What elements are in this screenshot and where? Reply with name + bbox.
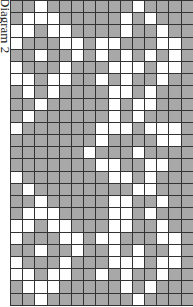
shaded-cell xyxy=(182,123,193,135)
shaded-cell xyxy=(72,25,84,37)
shaded-cell xyxy=(145,294,157,306)
shaded-cell xyxy=(157,50,169,62)
empty-cell xyxy=(11,220,23,232)
empty-cell xyxy=(60,62,72,74)
shaded-cell xyxy=(133,38,145,50)
shaded-cell xyxy=(182,38,193,50)
shaded-cell xyxy=(84,111,96,123)
shaded-cell xyxy=(48,123,60,135)
empty-cell xyxy=(11,25,23,37)
shaded-cell xyxy=(182,147,193,159)
shaded-cell xyxy=(60,123,72,135)
shaded-cell xyxy=(145,196,157,208)
shaded-cell xyxy=(182,269,193,281)
shaded-cell xyxy=(169,294,181,306)
shaded-cell xyxy=(157,281,169,293)
empty-cell xyxy=(109,159,121,171)
empty-cell xyxy=(121,86,133,98)
shaded-cell xyxy=(182,294,193,306)
shaded-cell xyxy=(133,135,145,147)
empty-cell xyxy=(121,13,133,25)
shaded-cell xyxy=(157,13,169,25)
shaded-cell xyxy=(48,233,60,245)
empty-cell xyxy=(169,38,181,50)
empty-cell xyxy=(11,38,23,50)
shaded-cell xyxy=(60,135,72,147)
shaded-cell xyxy=(182,50,193,62)
shaded-cell xyxy=(23,245,35,257)
shaded-cell xyxy=(84,233,96,245)
empty-cell xyxy=(109,196,121,208)
shaded-cell xyxy=(35,147,47,159)
empty-cell xyxy=(35,99,47,111)
empty-cell xyxy=(145,208,157,220)
empty-cell xyxy=(23,13,35,25)
shaded-cell xyxy=(169,269,181,281)
empty-cell xyxy=(48,25,60,37)
empty-cell xyxy=(157,74,169,86)
shaded-cell xyxy=(182,196,193,208)
empty-cell xyxy=(96,233,108,245)
empty-cell xyxy=(121,50,133,62)
empty-cell xyxy=(121,74,133,86)
shaded-cell xyxy=(182,135,193,147)
shaded-cell xyxy=(23,172,35,184)
shaded-cell xyxy=(133,220,145,232)
shaded-cell xyxy=(11,245,23,257)
shaded-cell xyxy=(60,50,72,62)
empty-cell xyxy=(133,294,145,306)
shaded-cell xyxy=(60,13,72,25)
shaded-cell xyxy=(11,294,23,306)
shaded-cell xyxy=(182,257,193,269)
empty-cell xyxy=(60,233,72,245)
empty-cell xyxy=(133,111,145,123)
shaded-cell xyxy=(169,281,181,293)
shaded-cell xyxy=(145,220,157,232)
shaded-cell xyxy=(121,294,133,306)
shaded-cell xyxy=(60,111,72,123)
shaded-cell xyxy=(23,38,35,50)
shaded-cell xyxy=(121,184,133,196)
empty-cell xyxy=(133,245,145,257)
shaded-cell xyxy=(182,172,193,184)
shaded-cell xyxy=(133,123,145,135)
shaded-cell xyxy=(35,74,47,86)
shaded-cell xyxy=(23,257,35,269)
shaded-cell xyxy=(72,123,84,135)
empty-cell xyxy=(109,208,121,220)
shaded-cell xyxy=(182,25,193,37)
shaded-cell xyxy=(157,294,169,306)
shaded-cell xyxy=(96,86,108,98)
shaded-cell xyxy=(60,1,72,13)
shaded-cell xyxy=(84,159,96,171)
shaded-cell xyxy=(96,220,108,232)
empty-cell xyxy=(35,196,47,208)
empty-cell xyxy=(48,86,60,98)
shaded-cell xyxy=(109,184,121,196)
shaded-cell xyxy=(133,233,145,245)
shaded-cell xyxy=(72,62,84,74)
shaded-cell xyxy=(182,1,193,13)
empty-cell xyxy=(23,220,35,232)
shaded-cell xyxy=(23,50,35,62)
shaded-cell xyxy=(48,147,60,159)
empty-cell xyxy=(60,25,72,37)
shaded-cell xyxy=(84,269,96,281)
empty-cell xyxy=(35,1,47,13)
empty-cell xyxy=(35,13,47,25)
shaded-cell xyxy=(109,294,121,306)
shaded-cell xyxy=(121,99,133,111)
empty-cell xyxy=(121,208,133,220)
shaded-cell xyxy=(84,220,96,232)
shaded-cell xyxy=(48,1,60,13)
shaded-cell xyxy=(169,196,181,208)
shaded-cell xyxy=(60,86,72,98)
empty-cell xyxy=(84,147,96,159)
shaded-cell xyxy=(182,245,193,257)
shaded-cell xyxy=(72,135,84,147)
shaded-cell xyxy=(72,147,84,159)
shaded-cell xyxy=(84,25,96,37)
empty-cell xyxy=(23,111,35,123)
empty-cell xyxy=(145,123,157,135)
empty-cell xyxy=(133,147,145,159)
